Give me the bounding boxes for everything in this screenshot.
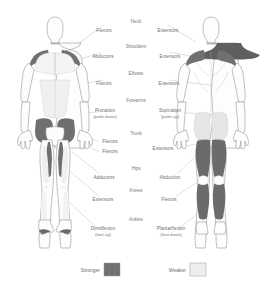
label-trunk-right: Extensors [153, 146, 175, 151]
label-trunk-left: Flexors [102, 139, 118, 144]
label-group-shoulders-title: Shoulders [126, 44, 147, 49]
label-ankles-left-sub: (foot up) [95, 232, 112, 237]
label-ankles-right: Plantarflexion [157, 226, 186, 231]
legend-swatch-stronger [104, 263, 120, 276]
label-hips-left: Adductors [93, 175, 115, 180]
label-shoulders-right: Extensors [160, 54, 182, 59]
label-trunk-left-second: Flexors [102, 149, 118, 154]
muscle-glute-right-back [194, 112, 210, 141]
muscle-glute-left-back [212, 112, 228, 141]
label-elbows-right: Extensors [159, 81, 181, 86]
label-group-ankles-title: Ankles [129, 217, 143, 222]
label-shoulders-left: Abductors [92, 54, 114, 59]
muscle-strength-diagram: Neck Flexors Extensors Shoulders Abducto… [0, 0, 272, 295]
label-group-forearms-title: Forearms [126, 98, 146, 103]
label-forearms-right: Supination [159, 108, 182, 113]
label-neck-right: Extensors [158, 28, 180, 33]
legend-label-weaker: Weaker [169, 267, 186, 273]
label-elbows-left: Flexors [96, 81, 112, 86]
label-ankles-right-sub: (foot down) [160, 232, 182, 237]
muscle-calf-right-back [197, 183, 210, 220]
label-group-neck-title: Neck [131, 19, 142, 24]
label-forearms-right-sub: (palm up) [161, 114, 180, 119]
label-forearms-left: Pronation [95, 108, 116, 113]
label-forearms-left-sub: (palm down) [93, 114, 117, 119]
label-neck-left: Flexors [96, 28, 112, 33]
label-ankles-left: Dorsiflexion [91, 226, 116, 231]
label-group-elbows-title: Elbows [129, 71, 145, 76]
label-group-trunk-title: Trunk [130, 131, 142, 136]
legend-label-stronger: Stronger [81, 267, 101, 273]
label-knees-left: Extensors [93, 197, 115, 202]
foot-right-back [196, 222, 208, 234]
label-group-hips-title: Hips [131, 166, 141, 171]
label-group-knees-title: Knees [129, 188, 143, 193]
legend-swatch-weaker [190, 263, 206, 276]
label-hips-right: Abduction [160, 175, 181, 180]
foot-left-back [214, 222, 226, 234]
label-knees-right: Flexors [161, 197, 177, 202]
muscle-calf-left-back [213, 183, 226, 220]
